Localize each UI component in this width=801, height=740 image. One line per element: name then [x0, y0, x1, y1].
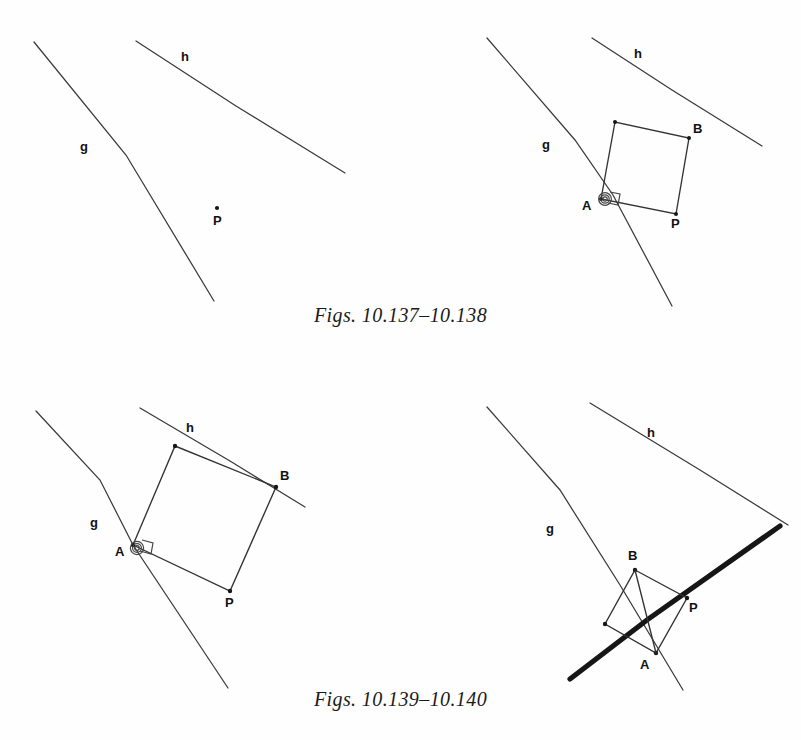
caption-text-1: Figs. 10.137–10.138 [314, 304, 487, 327]
fig1-label-g: g [80, 140, 88, 153]
fig2-square [601, 122, 689, 214]
figures-drawing-canvas: .ln { stroke:#3a3a3a; stroke-width:1.25;… [0, 0, 801, 740]
fig1-line-h [136, 41, 345, 173]
fig4-label-p: P [689, 601, 698, 614]
fig2-vertex-topleft-dot [613, 120, 617, 124]
fig2-label-g: g [542, 138, 550, 151]
fig-10-138-group [487, 38, 762, 306]
fig3-label-p: P [225, 596, 234, 609]
fig3-line-h [140, 408, 305, 507]
fig1-line-g [34, 42, 214, 301]
caption-text-2: Figs. 10.139–10.140 [314, 688, 487, 711]
fig2-label-p: P [671, 217, 680, 230]
fig4-line-h [590, 403, 788, 525]
fig2-label-h: h [634, 47, 642, 60]
fig3-point-b-dot [274, 485, 278, 489]
fig4-bold-line [570, 526, 780, 679]
fig2-point-b-dot [687, 136, 691, 140]
fig3-vertex-top-dot [173, 444, 177, 448]
fig3-line-g [36, 411, 228, 688]
fig-10-137-group [34, 41, 345, 301]
fig4-label-a: A [640, 658, 649, 671]
fig3-label-b: B [280, 469, 289, 482]
fig4-label-h: h [647, 426, 655, 439]
caption-figs-10-139-10-140: Figs. 10.139–10.140 [0, 688, 801, 711]
fig-10-139-group [36, 408, 305, 688]
fig1-label-h: h [181, 50, 189, 63]
fig4-label-b: B [628, 549, 637, 562]
fig2-line-h [592, 38, 762, 146]
fig2-label-a: A [582, 199, 591, 212]
fig4-label-g: g [546, 522, 554, 535]
fig3-arc-marker-at-a [130, 541, 143, 554]
fig1-point-p-dot [215, 206, 219, 210]
fig2-label-b: B [693, 122, 702, 135]
figure-sheet: .ln { stroke:#3a3a3a; stroke-width:1.25;… [0, 0, 801, 740]
caption-figs-10-137-10-138: Figs. 10.137–10.138 [0, 304, 801, 327]
fig3-square [133, 446, 276, 591]
fig4-vertex-left-dot [603, 622, 607, 626]
fig3-point-p-dot [228, 589, 232, 593]
fig3-label-g: g [90, 516, 98, 529]
fig3-label-h: h [186, 421, 194, 434]
fig4-diagonal-b-a [635, 570, 656, 653]
fig1-label-p: P [213, 214, 222, 227]
fig2-line-g [487, 38, 672, 306]
fig3-label-a: A [115, 545, 124, 558]
fig-10-140-group [487, 403, 788, 690]
fig4-line-g [487, 407, 683, 690]
